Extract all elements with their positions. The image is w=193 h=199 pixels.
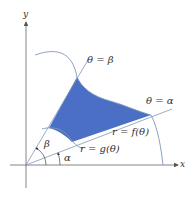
angle-arc-beta: [36, 148, 46, 165]
inner-curve-label: r = g(θ): [80, 144, 120, 154]
angle-alpha-label: α: [64, 153, 71, 163]
x-axis-label: x: [180, 160, 185, 169]
angle-arc-alpha: [58, 153, 60, 165]
ray-beta-label: θ = β: [87, 55, 114, 65]
y-axis-label: y: [23, 10, 28, 19]
outer-curve-label: r = f(θ): [112, 127, 149, 137]
angle-beta-label: β: [44, 139, 50, 149]
ray-alpha-label: θ = α: [146, 96, 174, 106]
